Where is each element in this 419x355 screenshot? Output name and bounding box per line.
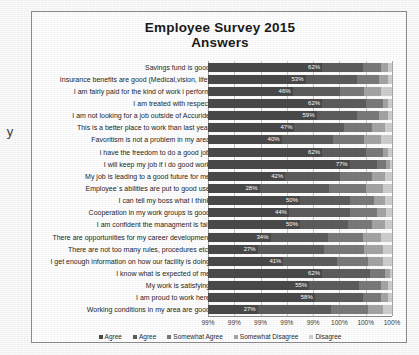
bar-segment — [366, 148, 383, 157]
category-label: I am proud to work here — [136, 293, 210, 302]
x-tick-label: 100% — [384, 319, 401, 326]
stacked-bar[interactable]: 44% — [208, 208, 392, 217]
legend-label: Agree — [105, 333, 122, 340]
category-label: I am confident the managment is fair — [97, 220, 210, 229]
chart-title-block: Employee Survey 2015 Answers — [32, 20, 408, 50]
stacked-bar[interactable]: 62% — [208, 269, 392, 278]
legend-item[interactable]: Agree — [133, 333, 156, 340]
chart-row: Employee´s abilities are put to good use… — [208, 184, 392, 193]
bar-segment — [300, 220, 348, 229]
bar-segment — [388, 75, 392, 84]
bar-segment — [377, 208, 386, 217]
category-label: I am treated with respect — [133, 99, 210, 108]
data-label: 62% — [308, 269, 320, 278]
bar-segment — [315, 293, 363, 302]
bar-segment — [322, 148, 366, 157]
data-label: 55% — [295, 281, 307, 290]
stacked-bar[interactable]: 62% — [208, 148, 392, 157]
bar-segment — [364, 245, 382, 254]
category-label: There are opportunities for my career de… — [52, 233, 210, 242]
stacked-bar[interactable]: 53% — [208, 75, 392, 84]
bar-segment: 46% — [208, 87, 293, 96]
stacked-bar[interactable]: 40% — [208, 135, 392, 144]
stacked-bar[interactable]: 28% — [208, 184, 392, 193]
stacked-bar[interactable]: 77% — [208, 160, 392, 169]
stacked-bar[interactable]: 42% — [208, 172, 392, 181]
bar-segment — [386, 208, 392, 217]
stacked-bar[interactable]: 58% — [208, 293, 392, 302]
legend-item[interactable]: Somewhat Disagree — [234, 333, 299, 340]
bar-segment — [385, 123, 392, 132]
bar-segment: 53% — [208, 75, 306, 84]
data-label: 50% — [286, 196, 298, 205]
bar-segment — [348, 220, 372, 229]
bar-segment — [331, 305, 368, 314]
bar-segment — [333, 135, 364, 144]
legend-swatch — [133, 335, 137, 339]
chart-frame: Employee Survey 2015 Answers Savings fun… — [31, 11, 407, 343]
bar-segment: 40% — [208, 135, 282, 144]
legend-item[interactable]: Somewhat Agree — [167, 333, 223, 340]
stacked-bar[interactable]: 62% — [208, 99, 392, 108]
data-label: 50% — [286, 220, 298, 229]
bar-segment — [390, 160, 392, 169]
stacked-bar[interactable]: 41% — [208, 257, 392, 266]
gridline — [392, 61, 393, 316]
stacked-bar[interactable]: 47% — [208, 123, 392, 132]
stacked-bar[interactable]: 27% — [208, 245, 392, 254]
stacked-bar[interactable]: 34% — [208, 233, 392, 242]
bar-segment — [293, 87, 341, 96]
category-label: Cooperation in my work groups is good — [89, 208, 210, 217]
bar-segment — [381, 293, 388, 302]
data-label: 41% — [269, 257, 281, 266]
x-tick-label: 100% — [331, 319, 348, 326]
chart-row: This is a better place to work than last… — [208, 123, 392, 132]
stacked-bar[interactable]: 50% — [208, 220, 392, 229]
category-label: Favoritism is not a problem in my area — [91, 135, 210, 144]
bar-segment: 44% — [208, 208, 289, 217]
stacked-bar[interactable]: 46% — [208, 87, 392, 96]
legend-item[interactable]: Agree — [99, 333, 122, 340]
bar-segment — [282, 135, 334, 144]
bar-segment — [388, 148, 392, 157]
chart-row: Cooperation in my work groups is good44% — [208, 208, 392, 217]
bar-segment — [381, 135, 392, 144]
stacked-bar[interactable]: 55% — [208, 281, 392, 290]
bar-segment — [381, 281, 388, 290]
data-label: 62% — [308, 148, 320, 157]
data-label: 77% — [336, 160, 348, 169]
stacked-bar[interactable]: 50% — [208, 196, 392, 205]
bar-segment — [383, 184, 392, 193]
legend-swatch — [234, 335, 238, 339]
stacked-bar[interactable]: 27% — [208, 305, 392, 314]
legend-label: Disagree — [315, 333, 341, 340]
stacked-bar[interactable]: 62% — [208, 63, 392, 72]
bar-segment: 77% — [208, 160, 350, 169]
bar-segment — [363, 233, 381, 242]
bar-segment: 28% — [208, 184, 260, 193]
category-label: My work is satisfying — [146, 281, 210, 290]
bar-segment — [388, 63, 392, 72]
bar-segment — [363, 293, 381, 302]
bar-segment: 27% — [208, 305, 258, 314]
chart-title: Employee Survey 2015 — [145, 20, 295, 35]
bar-segment — [366, 184, 383, 193]
bar-segment — [372, 172, 385, 181]
bar-segment — [357, 111, 379, 120]
x-tick-label: 99% — [201, 319, 214, 326]
bar-segment — [344, 123, 372, 132]
bar-segment — [381, 233, 392, 242]
chart-row: I am treated with respect62% — [208, 99, 392, 108]
bar-segment — [385, 172, 392, 181]
data-label: 28% — [246, 184, 258, 193]
data-label: 34% — [257, 233, 269, 242]
stacked-bar[interactable]: 59% — [208, 111, 392, 120]
legend-item[interactable]: Disagree — [309, 333, 341, 340]
chart-row: There are opportunities for my career de… — [208, 233, 392, 242]
bar-segment: 34% — [208, 233, 271, 242]
category-label: I know what is expected of me — [116, 269, 210, 278]
bar-segment — [350, 160, 378, 169]
bar-segment — [357, 75, 379, 84]
bar-segment — [383, 305, 392, 314]
category-label: Insurance benefits are good (Medical,vis… — [60, 75, 210, 84]
